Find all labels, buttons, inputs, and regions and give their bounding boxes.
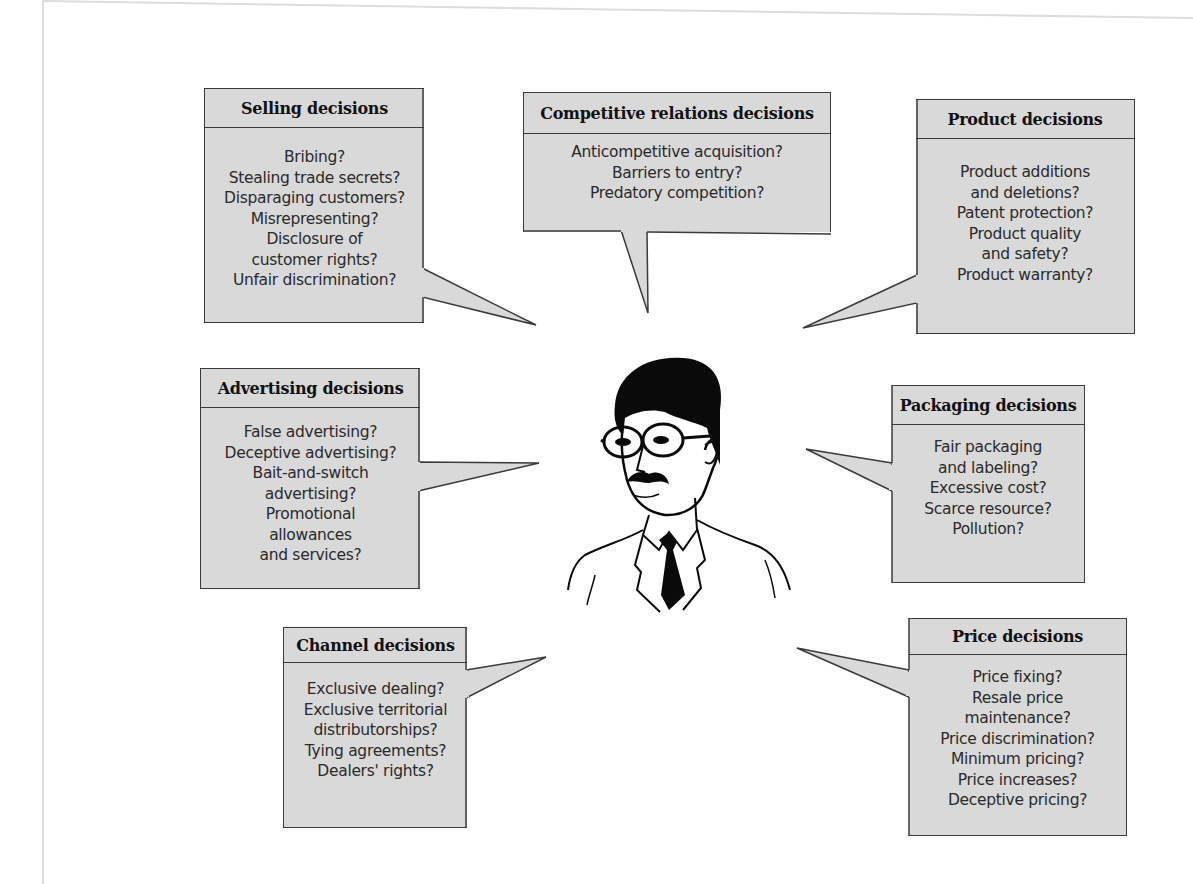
product-decisions-list: Product additions and deletions? Patent … [916, 139, 1134, 285]
list-item: Exclusive territorial [284, 700, 467, 721]
list-item: Scarce resource? [892, 499, 1084, 520]
list-item: Promotional [201, 504, 420, 525]
list-item: Product warranty? [916, 265, 1134, 286]
packaging-decisions-title: Packaging decisions [892, 386, 1084, 425]
competitive-tail [621, 230, 648, 313]
selling-decisions-title: Selling decisions [205, 89, 424, 128]
price-decisions-list: Price fixing? Resale price maintenance? … [909, 655, 1126, 811]
list-item: Predatory competition? [524, 183, 830, 204]
list-item: Resale price [909, 688, 1126, 709]
channel-decisions-title: Channel decisions [284, 628, 467, 663]
list-item: Patent protection? [916, 203, 1134, 224]
price-decisions-box: Price decisions Price fixing? Resale pri… [909, 618, 1127, 836]
list-item: Product quality [916, 224, 1134, 245]
list-item: Disparaging customers? [205, 188, 424, 209]
advertising-tail [418, 462, 539, 491]
packaging-tail [806, 449, 892, 491]
list-item: distributorships? [284, 720, 467, 741]
channel-decisions-box: Channel decisions Exclusive dealing? Exc… [283, 627, 467, 828]
list-item: False advertising? [201, 422, 420, 443]
advertising-decisions-list: False advertising? Deceptive advertising… [201, 408, 420, 566]
product-decisions-box: Product decisions Product additions and … [916, 99, 1135, 334]
list-item: Bribing? [205, 147, 424, 168]
list-item: Bait-and-switch [201, 463, 420, 484]
list-item: Product additions [916, 162, 1134, 183]
channel-decisions-list: Exclusive dealing? Exclusive territorial… [284, 663, 467, 782]
list-item: and deletions? [916, 183, 1134, 204]
list-item: and services? [201, 545, 420, 566]
product-decisions-title: Product decisions [916, 100, 1134, 139]
competitive-relations-decisions-box: Competitive relations decisions Anticomp… [523, 92, 831, 232]
price-tail [797, 648, 909, 697]
list-item: Price fixing? [909, 667, 1126, 688]
list-item: Disclosure of [205, 229, 424, 250]
list-item: Price discrimination? [909, 729, 1126, 750]
mustache-icon [627, 472, 669, 484]
list-item: Excessive cost? [892, 478, 1084, 499]
tie-icon [659, 532, 685, 610]
list-item: Dealers' rights? [284, 761, 467, 782]
channel-tail [466, 657, 546, 698]
packaging-decisions-box: Packaging decisions Fair packaging and l… [892, 385, 1085, 583]
competitive-relations-decisions-list: Anticompetitive acquisition? Barriers to… [524, 134, 830, 204]
list-item: Anticompetitive acquisition? [524, 142, 830, 163]
product-tail [803, 275, 917, 328]
list-item: Stealing trade secrets? [205, 168, 424, 189]
list-item: Minimum pricing? [909, 749, 1126, 770]
list-item: Pollution? [892, 519, 1084, 540]
list-item: Price increases? [909, 770, 1126, 791]
list-item: Tying agreements? [284, 741, 467, 762]
competitive-relations-decisions-title: Competitive relations decisions [524, 93, 830, 134]
selling-tail [422, 268, 536, 325]
list-item: customer rights? [205, 250, 424, 271]
list-item: Deceptive pricing? [909, 790, 1126, 811]
list-item: advertising? [201, 484, 420, 505]
list-item: and labeling? [892, 458, 1084, 479]
list-item: Barriers to entry? [524, 163, 830, 184]
list-item: allowances [201, 525, 420, 546]
packaging-decisions-list: Fair packaging and labeling? Excessive c… [892, 425, 1084, 540]
advertising-decisions-box: Advertising decisions False advertising?… [200, 368, 420, 589]
list-item: Exclusive dealing? [284, 679, 467, 700]
advertising-decisions-title: Advertising decisions [201, 369, 420, 408]
selling-decisions-box: Selling decisions Bribing? Stealing trad… [204, 88, 424, 323]
price-decisions-title: Price decisions [909, 619, 1126, 655]
list-item: Misrepresenting? [205, 209, 424, 230]
list-item: Fair packaging [892, 437, 1084, 458]
marketing-manager-illustration [565, 350, 815, 615]
list-item: maintenance? [909, 708, 1126, 729]
list-item: Unfair discrimination? [205, 270, 424, 291]
list-item: Deceptive advertising? [201, 443, 420, 464]
selling-decisions-list: Bribing? Stealing trade secrets? Dispara… [205, 128, 424, 291]
list-item: and safety? [916, 244, 1134, 265]
